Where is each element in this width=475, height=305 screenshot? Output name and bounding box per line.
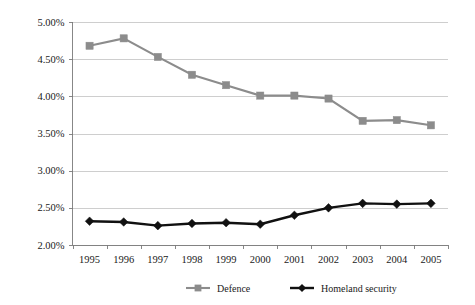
x-axis-tick-label: 1996 [113,254,134,265]
y-axis-tick-label: 5.00% [37,17,64,28]
y-axis-tick-label: 2.00% [37,240,64,251]
line-chart: 2.00%2.50%3.00%3.50%4.00%4.50%5.00% 1995… [0,0,475,305]
data-point-marker [257,92,264,99]
data-point-marker [188,71,195,78]
data-point-marker [154,53,161,60]
data-point-marker [427,122,434,129]
legend-marker-defence [195,285,202,292]
x-axis-tick-label: 2005 [420,254,441,265]
y-axis-tick-label: 4.50% [37,54,64,65]
data-point-marker [393,117,400,124]
y-axis-tick-label: 2.50% [37,202,64,213]
y-axis-tick-label: 4.00% [37,91,64,102]
data-point-marker [325,95,332,102]
x-axis-tick-label: 1995 [79,254,100,265]
legend-label-homeland-security: Homeland security [321,283,397,294]
x-axis-tick-label: 2002 [318,254,339,265]
y-axis-tick-label: 3.50% [37,128,64,139]
x-axis-tick-labels: 1995199619971998199920002001200220032004… [79,254,441,265]
x-axis-tick-label: 2004 [386,254,408,265]
x-axis-tick-label: 1998 [181,254,202,265]
x-axis-tick-label: 1997 [147,254,168,265]
data-point-marker [223,82,230,89]
x-axis-tick-label: 2001 [284,254,305,265]
x-axis-tick-label: 2003 [352,254,373,265]
x-axis-tick-label: 1999 [216,254,237,265]
y-axis-tick-label: 3.00% [37,165,64,176]
data-point-marker [291,92,298,99]
chart-container: 2.00%2.50%3.00%3.50%4.00%4.50%5.00% 1995… [0,0,475,305]
data-point-marker [86,42,93,49]
data-point-marker [359,117,366,124]
x-axis-tick-label: 2000 [250,254,271,265]
data-point-marker [120,35,127,42]
legend-label-defence: Defence [217,283,251,294]
